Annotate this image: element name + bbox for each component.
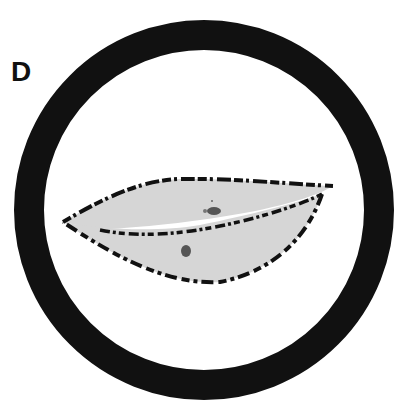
figure-diagram [0,0,395,406]
leaf-shape [63,179,333,282]
spot-lower [181,245,191,257]
